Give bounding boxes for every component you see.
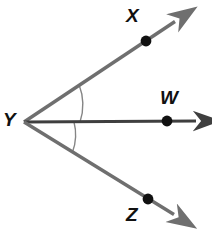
vertex-label-y: Y <box>3 110 16 129</box>
point-label-z: Z <box>126 205 138 224</box>
point-w <box>162 116 173 127</box>
point-z <box>143 194 154 205</box>
geometry-figure: X W Y Z <box>0 0 212 239</box>
ray-yx <box>24 22 175 123</box>
angle-diagram-canvas <box>0 0 212 239</box>
point-label-w: W <box>160 88 178 107</box>
angle-arc-xyw <box>79 84 83 122</box>
point-x <box>141 36 152 47</box>
point-label-x: X <box>126 6 139 25</box>
angle-arc-wyz <box>73 122 76 152</box>
